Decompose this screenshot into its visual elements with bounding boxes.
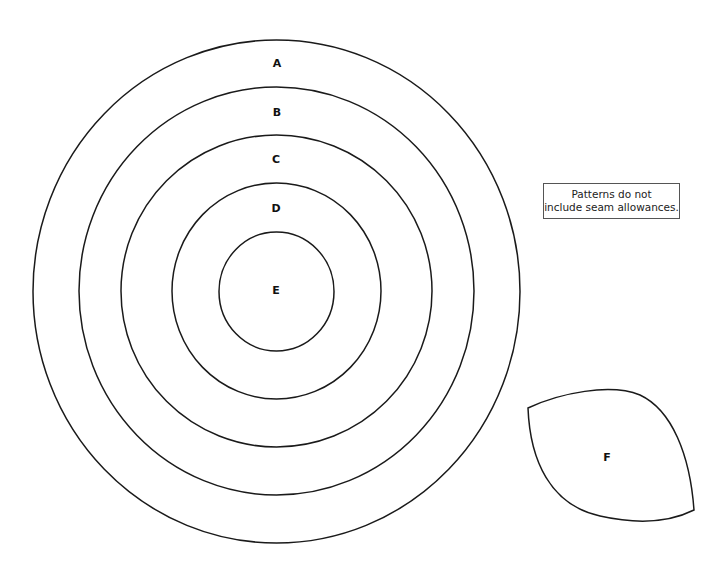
label-c: C bbox=[272, 153, 280, 166]
label-b: B bbox=[273, 106, 281, 119]
leaf-shape-f bbox=[528, 390, 694, 522]
label-e: E bbox=[272, 284, 280, 297]
label-f: F bbox=[603, 451, 611, 464]
pattern-canvas: A B C D E F bbox=[0, 0, 726, 566]
note-line-1: Patterns do not bbox=[571, 188, 651, 201]
label-a: A bbox=[273, 57, 282, 70]
label-d: D bbox=[271, 202, 280, 215]
note-line-2: include seam allowances. bbox=[544, 201, 679, 214]
seam-allowance-note: Patterns do not include seam allowances. bbox=[543, 183, 680, 219]
